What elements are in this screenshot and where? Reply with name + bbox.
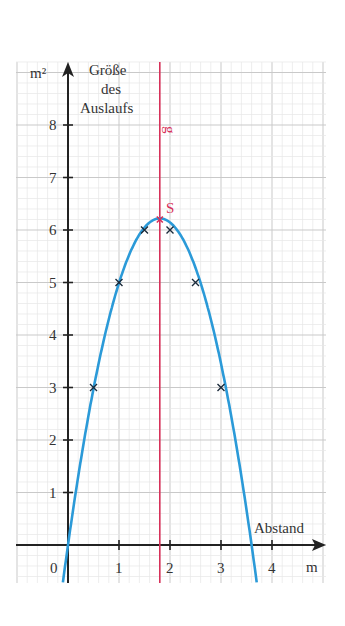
- ticks: 123412345678: [49, 117, 276, 576]
- x-unit-label: m: [306, 559, 318, 575]
- origin-label: 0: [50, 560, 58, 576]
- y-unit-label: m²: [30, 65, 47, 81]
- y-tick-label: 6: [49, 222, 57, 238]
- y-tick-label: 4: [49, 327, 57, 343]
- x-tick-label: 4: [268, 560, 276, 576]
- y-tick-label: 7: [49, 170, 57, 186]
- x-tick-label: 1: [115, 560, 123, 576]
- x-tick-label: 3: [217, 560, 225, 576]
- y-title-line-1: Größe: [89, 62, 127, 78]
- x-title-label: Abstand: [254, 520, 304, 536]
- vertex-label-s: S: [166, 200, 174, 216]
- y-title-line-3: Auslaufs: [80, 100, 133, 116]
- y-tick-label: 2: [49, 432, 57, 448]
- parabola-chart: 123412345678 m² Größe des Auslaufs Absta…: [0, 0, 345, 626]
- y-tick-label: 1: [49, 485, 57, 501]
- y-title-line-2: des: [101, 81, 121, 97]
- symmetry-line-label-g: g: [162, 126, 178, 134]
- x-tick-label: 2: [166, 560, 174, 576]
- grid: [16, 62, 326, 583]
- y-tick-label: 5: [49, 275, 57, 291]
- axes: [16, 62, 326, 583]
- y-tick-label: 8: [49, 117, 57, 133]
- y-tick-label: 3: [49, 380, 57, 396]
